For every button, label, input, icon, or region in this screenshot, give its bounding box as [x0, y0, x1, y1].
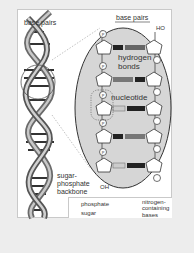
svg-text:P: P: [102, 32, 105, 37]
label-backbone-3: backbone: [57, 188, 87, 196]
label-backbone-1: sugar-: [57, 172, 77, 180]
label-ho: HO: [156, 24, 165, 32]
label-bonds: bonds: [118, 62, 140, 71]
legend-sugar-label: sugar: [81, 210, 96, 216]
legend-bases-label-3: bases: [142, 212, 158, 218]
label-nucleotide: nucleotide: [111, 93, 147, 102]
svg-text:P: P: [102, 150, 105, 155]
label-base-pairs-left: base pairs: [24, 19, 56, 27]
legend-bases-label-2: containing: [142, 205, 169, 211]
label-base-pairs-right: base pairs: [116, 14, 148, 22]
legend-phosphate-label: phosphate: [81, 201, 109, 207]
label-backbone-2: phosphate: [57, 180, 90, 188]
label-oh: OH: [100, 183, 109, 191]
legend: phosphate sugar nitrogen- containing bas…: [68, 197, 172, 218]
label-hydrogen: hydrogen: [118, 53, 151, 62]
svg-text:P: P: [102, 64, 105, 69]
svg-text:P: P: [102, 121, 105, 126]
svg-text:P: P: [102, 93, 105, 98]
